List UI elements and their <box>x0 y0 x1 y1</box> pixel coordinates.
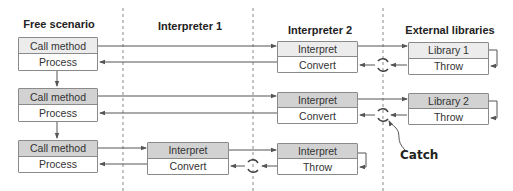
throw-label: Throw <box>278 159 357 174</box>
interpret-label: Interpret <box>148 143 228 159</box>
interpret-label: Interpret <box>278 42 357 57</box>
library-2-label: Library 2 <box>409 94 488 109</box>
free-scenario-box-1: Call method Process <box>18 37 98 71</box>
interpreter-2-box-1: Interpret Convert <box>277 41 358 73</box>
convert-label: Convert <box>278 108 357 123</box>
interpreter-2-box-2: Interpret Convert <box>277 92 358 124</box>
library-1-box: Library 1 Throw <box>408 42 489 75</box>
interpret-label: Interpret <box>278 93 357 108</box>
process-label: Process <box>19 54 97 70</box>
convert-label: Convert <box>278 57 357 72</box>
library-1-label: Library 1 <box>409 43 488 59</box>
free-scenario-box-3: Call method Process <box>18 140 98 173</box>
call-method-label: Call method <box>19 141 97 157</box>
interpreter-1-box: Interpret Convert <box>147 142 229 175</box>
process-label: Process <box>19 105 97 121</box>
interpreter-2-box-3: Interpret Throw <box>277 143 358 175</box>
convert-label: Convert <box>148 159 228 175</box>
interpret-label: Interpret <box>278 144 357 159</box>
process-label: Process <box>19 157 97 173</box>
free-scenario-box-2: Call method Process <box>18 88 98 122</box>
catch-annotation: Catch <box>400 148 438 162</box>
library-2-box: Library 2 Throw <box>408 93 489 125</box>
throw-label: Throw <box>409 59 488 75</box>
call-method-label: Call method <box>19 38 97 54</box>
call-method-label: Call method <box>19 89 97 105</box>
throw-label: Throw <box>409 109 488 124</box>
